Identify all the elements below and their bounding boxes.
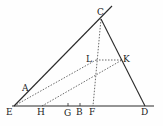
label-B: B: [76, 108, 83, 117]
label-D: D: [141, 108, 148, 117]
label-F: F: [89, 108, 95, 117]
label-H: H: [37, 108, 45, 117]
geometry-diagram: C A L K E H G B F D: [0, 0, 163, 126]
label-L: L: [86, 55, 92, 64]
dotted-HK: [42, 60, 122, 106]
label-A: A: [22, 84, 29, 93]
label-G: G: [64, 109, 71, 118]
dotted-CF: [93, 19, 101, 106]
label-E: E: [6, 108, 13, 117]
label-K: K: [123, 55, 130, 64]
label-C: C: [97, 8, 104, 17]
